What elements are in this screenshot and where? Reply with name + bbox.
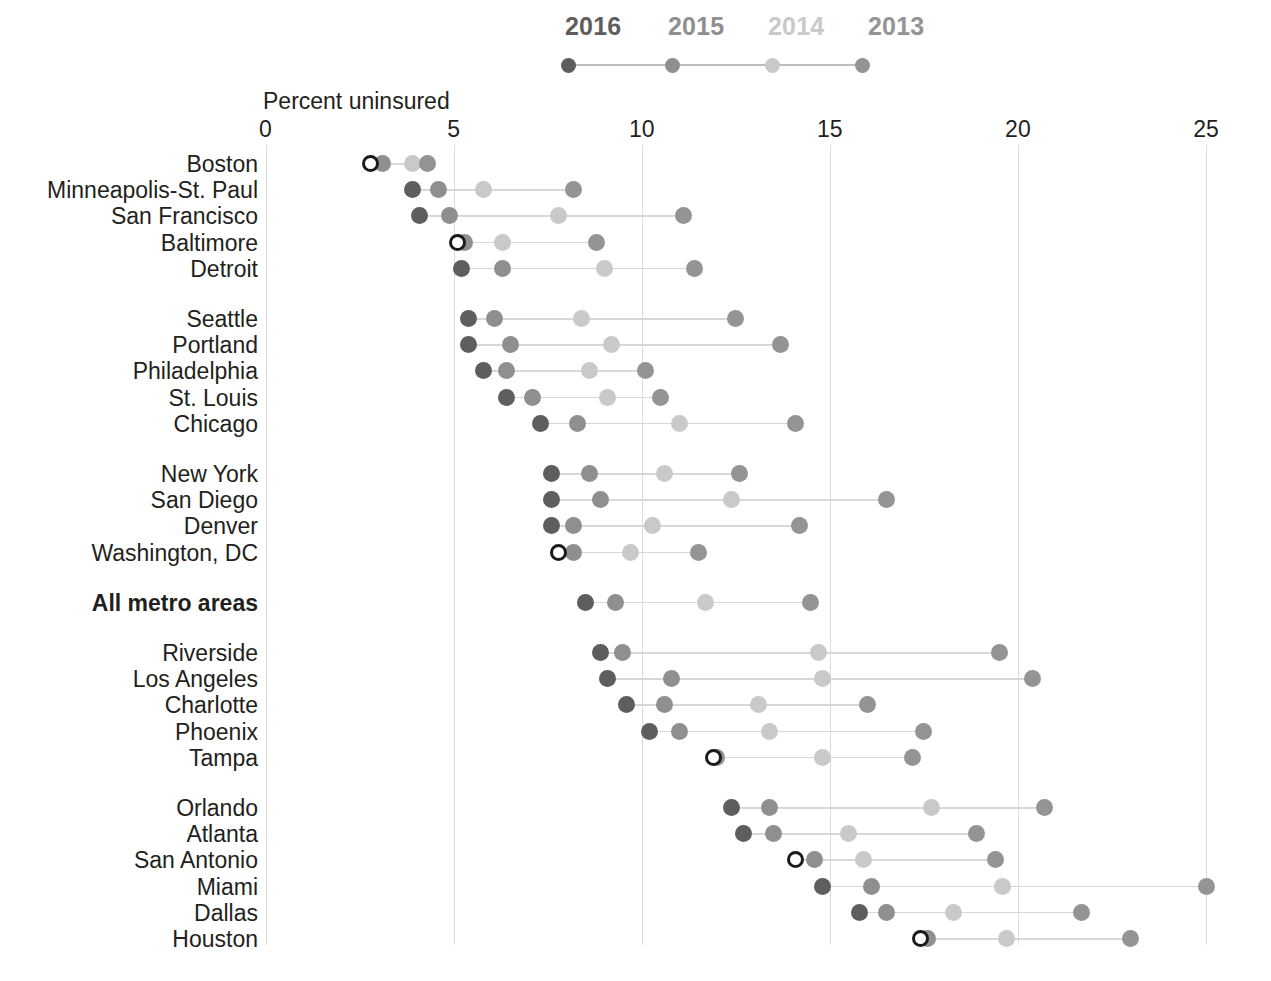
data-point-2014[interactable] <box>814 670 831 687</box>
data-point-2013[interactable] <box>772 336 789 353</box>
data-point-2015[interactable] <box>498 362 515 379</box>
data-point-2016[interactable] <box>498 389 515 406</box>
data-point-2013[interactable] <box>1122 930 1139 947</box>
data-point-2016[interactable] <box>577 594 594 611</box>
data-point-2014[interactable] <box>581 362 598 379</box>
data-point-2014[interactable] <box>475 181 492 198</box>
data-point-2016[interactable] <box>618 696 635 713</box>
data-point-2013[interactable] <box>675 207 692 224</box>
data-point-2016[interactable] <box>723 799 740 816</box>
data-point-2014[interactable] <box>550 207 567 224</box>
data-point-2014[interactable] <box>998 930 1015 947</box>
data-point-2015[interactable] <box>524 389 541 406</box>
data-point-2014[interactable] <box>750 696 767 713</box>
data-point-2015[interactable] <box>765 825 782 842</box>
data-point-2016[interactable] <box>599 670 616 687</box>
data-point-2014[interactable] <box>603 336 620 353</box>
data-point-2016[interactable] <box>912 930 929 947</box>
data-point-2014[interactable] <box>810 644 827 661</box>
data-point-2015[interactable] <box>581 465 598 482</box>
data-point-2015[interactable] <box>592 491 609 508</box>
data-point-2016[interactable] <box>449 234 466 251</box>
data-point-2016[interactable] <box>735 825 752 842</box>
data-point-2013[interactable] <box>968 825 985 842</box>
data-point-2014[interactable] <box>671 415 688 432</box>
data-point-2013[interactable] <box>652 389 669 406</box>
data-point-2014[interactable] <box>994 878 1011 895</box>
data-point-2015[interactable] <box>607 594 624 611</box>
data-point-2016[interactable] <box>550 544 567 561</box>
data-point-2014[interactable] <box>622 544 639 561</box>
data-point-2015[interactable] <box>430 181 447 198</box>
data-point-2014[interactable] <box>923 799 940 816</box>
data-point-2015[interactable] <box>656 696 673 713</box>
data-point-2016[interactable] <box>814 878 831 895</box>
data-point-2015[interactable] <box>806 851 823 868</box>
legend-label-2014[interactable]: 2014 <box>768 12 824 41</box>
data-point-2016[interactable] <box>787 851 804 868</box>
data-point-2016[interactable] <box>641 723 658 740</box>
data-point-2016[interactable] <box>453 260 470 277</box>
data-point-2015[interactable] <box>614 644 631 661</box>
data-point-2014[interactable] <box>814 749 831 766</box>
data-point-2015[interactable] <box>569 415 586 432</box>
data-point-2013[interactable] <box>419 155 436 172</box>
data-point-2014[interactable] <box>723 491 740 508</box>
data-point-2014[interactable] <box>596 260 613 277</box>
legend-dot-2013[interactable] <box>855 58 870 73</box>
legend-label-2015[interactable]: 2015 <box>668 12 724 41</box>
data-point-2013[interactable] <box>1036 799 1053 816</box>
legend-dot-2014[interactable] <box>765 58 780 73</box>
data-point-2014[interactable] <box>761 723 778 740</box>
data-point-2014[interactable] <box>656 465 673 482</box>
data-point-2013[interactable] <box>727 310 744 327</box>
data-point-2013[interactable] <box>859 696 876 713</box>
data-point-2013[interactable] <box>588 234 605 251</box>
data-point-2015[interactable] <box>502 336 519 353</box>
data-point-2015[interactable] <box>486 310 503 327</box>
data-point-2013[interactable] <box>731 465 748 482</box>
data-point-2016[interactable] <box>543 517 560 534</box>
data-point-2014[interactable] <box>855 851 872 868</box>
data-point-2016[interactable] <box>411 207 428 224</box>
data-point-2013[interactable] <box>1198 878 1215 895</box>
legend-dot-2016[interactable] <box>561 58 576 73</box>
data-point-2015[interactable] <box>441 207 458 224</box>
data-point-2013[interactable] <box>991 644 1008 661</box>
data-point-2016[interactable] <box>460 310 477 327</box>
data-point-2013[interactable] <box>987 851 1004 868</box>
data-point-2014[interactable] <box>697 594 714 611</box>
data-point-2015[interactable] <box>761 799 778 816</box>
data-point-2015[interactable] <box>663 670 680 687</box>
data-point-2015[interactable] <box>565 517 582 534</box>
data-point-2013[interactable] <box>791 517 808 534</box>
data-point-2015[interactable] <box>863 878 880 895</box>
data-point-2015[interactable] <box>494 260 511 277</box>
legend-dot-2015[interactable] <box>665 58 680 73</box>
data-point-2016[interactable] <box>543 465 560 482</box>
data-point-2013[interactable] <box>565 181 582 198</box>
data-point-2014[interactable] <box>573 310 590 327</box>
data-point-2016[interactable] <box>851 904 868 921</box>
data-point-2014[interactable] <box>840 825 857 842</box>
data-point-2013[interactable] <box>787 415 804 432</box>
data-point-2013[interactable] <box>1024 670 1041 687</box>
data-point-2015[interactable] <box>671 723 688 740</box>
data-point-2014[interactable] <box>599 389 616 406</box>
legend-label-2016[interactable]: 2016 <box>565 12 621 41</box>
data-point-2016[interactable] <box>705 749 722 766</box>
data-point-2013[interactable] <box>637 362 654 379</box>
data-point-2014[interactable] <box>644 517 661 534</box>
data-point-2016[interactable] <box>532 415 549 432</box>
data-point-2013[interactable] <box>690 544 707 561</box>
data-point-2013[interactable] <box>686 260 703 277</box>
data-point-2015[interactable] <box>878 904 895 921</box>
data-point-2014[interactable] <box>494 234 511 251</box>
data-point-2013[interactable] <box>1073 904 1090 921</box>
data-point-2015[interactable] <box>565 544 582 561</box>
data-point-2016[interactable] <box>475 362 492 379</box>
data-point-2013[interactable] <box>802 594 819 611</box>
data-point-2014[interactable] <box>945 904 962 921</box>
data-point-2013[interactable] <box>915 723 932 740</box>
legend-label-2013[interactable]: 2013 <box>868 12 924 41</box>
